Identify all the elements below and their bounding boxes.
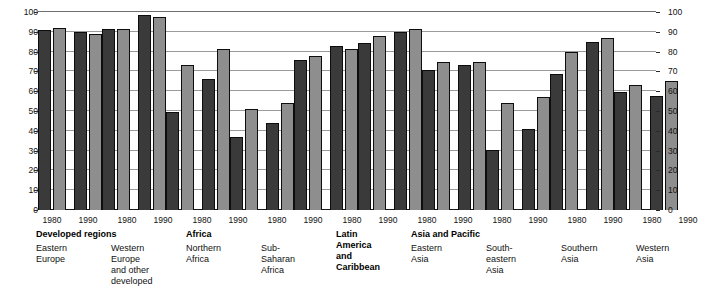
region-group xyxy=(294,12,358,210)
year-pair xyxy=(138,12,166,210)
y-tick-mark-right-30 xyxy=(656,151,660,152)
bar xyxy=(245,109,258,210)
y-tick-label-right-100: 100 xyxy=(668,8,692,17)
category-minor-label: Western Europe and other developed xyxy=(111,243,153,287)
x-axis-year-labels: 1980199019801990198019901980199019801990… xyxy=(38,213,656,227)
year-label-1980: 1980 xyxy=(561,213,593,227)
bar xyxy=(486,150,499,210)
bar xyxy=(501,103,514,210)
y-tick-mark-right-10 xyxy=(656,190,660,191)
bar xyxy=(601,38,614,210)
category-block: AfricaNorthern Africa xyxy=(186,229,221,265)
y-tick-mark-right-40 xyxy=(656,131,660,132)
year-label-1990: 1990 xyxy=(522,213,554,227)
year-pair xyxy=(586,12,614,210)
category-major-label: Asia and Pacific xyxy=(411,229,480,240)
category-major-label: Developed regions xyxy=(36,229,117,240)
year-label-1980: 1980 xyxy=(111,213,143,227)
year-label-1980: 1980 xyxy=(636,213,668,227)
y-tick-mark-right-70 xyxy=(656,71,660,72)
bar xyxy=(74,32,87,210)
year-pair xyxy=(38,12,66,210)
y-tick-label-right-10: 10 xyxy=(668,186,692,195)
bar xyxy=(330,46,343,210)
category-minor-label: Western Asia xyxy=(636,243,669,265)
bar xyxy=(629,85,642,210)
year-pair xyxy=(102,12,130,210)
y-tick-mark-right-80 xyxy=(656,52,660,53)
y-tick-label-right-60: 60 xyxy=(668,87,692,96)
region-group xyxy=(422,12,486,210)
year-pair xyxy=(74,12,102,210)
category-block: Latin America and Caribbean xyxy=(336,229,380,276)
category-minor-label: Eastern Asia xyxy=(411,243,480,265)
bar xyxy=(409,29,422,210)
bar xyxy=(102,29,115,210)
y-tick-mark-left-20 xyxy=(34,170,38,171)
year-spacer xyxy=(514,209,522,210)
bar xyxy=(650,96,663,210)
bar xyxy=(309,56,322,210)
bar xyxy=(358,43,371,210)
y-tick-label-right-70: 70 xyxy=(668,67,692,76)
x-axis-category-labels: Developed regionsEastern Europe Western … xyxy=(38,229,698,291)
y-tick-mark-left-50 xyxy=(34,111,38,112)
bar xyxy=(373,36,386,210)
year-label-1990: 1990 xyxy=(447,213,479,227)
category-minor-label: South- eastern Asia xyxy=(486,243,516,276)
y-tick-label-right-80: 80 xyxy=(668,48,692,57)
year-pair xyxy=(330,12,358,210)
category-minor-label: Southern Asia xyxy=(561,243,598,265)
region-group xyxy=(38,12,102,210)
bar xyxy=(345,49,358,210)
year-spacer xyxy=(642,209,650,210)
category-block: Sub- Saharan Africa xyxy=(261,229,295,276)
top-edge-artifact xyxy=(40,2,210,5)
bar xyxy=(522,129,535,210)
bar xyxy=(138,15,151,210)
y-tick-mark-left-10 xyxy=(34,190,38,191)
y-tick-mark-right-100 xyxy=(656,12,660,13)
y-tick-mark-left-90 xyxy=(34,32,38,33)
bar xyxy=(217,49,230,210)
bar xyxy=(537,97,550,210)
year-label-1980: 1980 xyxy=(486,213,518,227)
y-tick-mark-right-0 xyxy=(656,210,660,211)
year-pair xyxy=(614,12,642,210)
bar xyxy=(473,62,486,211)
bar xyxy=(181,65,194,210)
region-group xyxy=(230,12,294,210)
bar xyxy=(614,92,627,210)
plot-area xyxy=(38,12,656,210)
bar xyxy=(117,29,130,210)
bar xyxy=(294,60,307,210)
year-label-1980: 1980 xyxy=(336,213,368,227)
year-pair xyxy=(266,12,294,210)
bar xyxy=(202,79,215,210)
y-tick-label-right-90: 90 xyxy=(668,28,692,37)
bar xyxy=(266,123,279,210)
region-group xyxy=(358,12,422,210)
category-block: Western Asia xyxy=(636,229,669,265)
bar xyxy=(586,42,599,210)
y-tick-label-right-20: 20 xyxy=(668,166,692,175)
y-tick-mark-left-0 xyxy=(34,210,38,211)
year-label-1990: 1990 xyxy=(672,213,704,227)
y-tick-mark-right-60 xyxy=(656,91,660,92)
bar xyxy=(550,74,563,210)
category-minor-label: Sub- Saharan Africa xyxy=(261,243,295,276)
bar xyxy=(437,62,450,211)
bar xyxy=(153,17,166,210)
bar xyxy=(458,65,471,210)
category-block: Southern Asia xyxy=(561,229,598,265)
bar xyxy=(230,137,243,210)
year-pair xyxy=(294,12,322,210)
bar-groups xyxy=(38,12,656,210)
y-tick-mark-right-90 xyxy=(656,32,660,33)
category-block: South- eastern Asia xyxy=(486,229,516,276)
bar xyxy=(394,32,407,210)
bar-chart: 1009080706050403020100 10090807060504030… xyxy=(0,0,704,292)
year-spacer xyxy=(450,209,458,210)
region-group xyxy=(486,12,550,210)
year-spacer xyxy=(194,209,202,210)
